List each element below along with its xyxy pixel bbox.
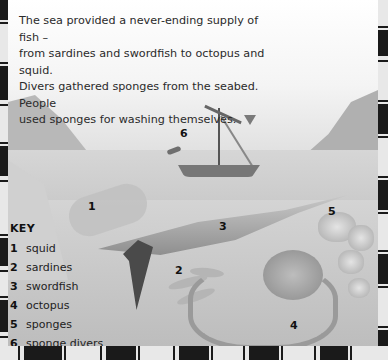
body-line: from sardines and swordfish to octopus a… [19, 46, 269, 79]
body-line: Divers gathered sponges from the seabed.… [19, 79, 269, 112]
body-line: used sponges for washing themselves. [19, 112, 269, 129]
key-item: 4octopus [10, 296, 103, 315]
sponge-illustration [348, 278, 370, 298]
label-2: 2 [175, 264, 183, 277]
label-1: 1 [88, 200, 96, 213]
right-border-pattern [378, 0, 388, 360]
key-item: 2sardines [10, 258, 103, 277]
label-3: 3 [219, 220, 227, 233]
label-5: 5 [328, 205, 336, 218]
sponge-illustration [338, 250, 364, 274]
page: The sea provided a never-ending supply o… [0, 0, 388, 360]
label-6: 6 [180, 127, 188, 140]
body-line: The sea provided a never-ending supply o… [19, 13, 269, 46]
key-item: 1squid [10, 239, 103, 258]
left-border-pattern [0, 0, 8, 360]
sponge-illustration [348, 225, 374, 251]
key-legend: KEY 1squid 2sardines 3swordfish 4octopus… [10, 222, 103, 353]
octopus-illustration [263, 250, 323, 300]
key-item: 5sponges [10, 315, 103, 334]
bottom-border-pattern [0, 346, 388, 360]
down-triangle-icon [244, 115, 256, 125]
label-4: 4 [290, 319, 298, 332]
key-title: KEY [10, 222, 103, 235]
key-item: 3swordfish [10, 277, 103, 296]
body-text: The sea provided a never-ending supply o… [19, 13, 269, 129]
